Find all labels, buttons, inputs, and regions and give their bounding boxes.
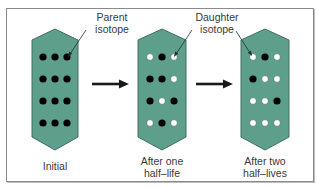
parent-isotope-dot	[39, 53, 46, 60]
daughter-isotope-dot	[171, 76, 178, 83]
daughter-isotope-label-line2: isotope	[188, 23, 246, 35]
caption-after-two-half-lives: After two half–lives	[230, 155, 300, 179]
daughter-isotope-label: Daughter isotope	[188, 11, 246, 35]
panel-after-two-half-lives-shape	[241, 29, 289, 150]
parent-isotope-dot	[39, 75, 46, 82]
daughter-isotope-dot	[147, 54, 154, 61]
daughter-isotope-dot	[250, 120, 257, 127]
daughter-isotope-dot	[262, 76, 269, 83]
daughter-isotope-dot	[274, 54, 281, 61]
daughter-isotope-dot	[159, 98, 166, 105]
daughter-isotope-dot	[274, 76, 281, 83]
parent-isotope-dot	[63, 119, 70, 126]
daughter-isotope-dot	[262, 98, 269, 105]
parent-isotope-dot	[39, 119, 46, 126]
caption-after-one-half-life-line1: After one	[128, 155, 196, 167]
parent-isotope-dot	[146, 75, 153, 82]
arrow-icon	[196, 80, 233, 89]
parent-isotope-dot	[273, 97, 280, 104]
parent-isotope-dot	[51, 97, 58, 104]
caption-initial-line1: Initial	[25, 160, 85, 172]
daughter-isotope-label-line1: Daughter	[188, 11, 246, 23]
parent-isotope-dot	[158, 53, 165, 60]
parent-isotope-dot	[158, 75, 165, 82]
parent-isotope-dot	[51, 53, 58, 60]
parent-isotope-dot	[261, 53, 268, 60]
parent-isotope-dot	[170, 97, 177, 104]
daughter-isotope-dot	[250, 98, 257, 105]
parent-isotope-dot	[146, 97, 153, 104]
panel-after-one-half-life-shape	[138, 29, 186, 150]
daughter-isotope-dot	[262, 120, 269, 127]
parent-isotope-label-line2: isotope	[86, 23, 138, 35]
parent-isotope-dot	[158, 119, 165, 126]
arrow-icon	[92, 80, 129, 89]
parent-isotope-label-line1: Parent	[86, 11, 138, 23]
daughter-isotope-dot	[274, 120, 281, 127]
caption-initial: Initial	[25, 160, 85, 172]
parent-isotope-label: Parent isotope	[86, 11, 138, 35]
daughter-isotope-dot	[147, 120, 154, 127]
parent-isotope-dot	[39, 97, 46, 104]
diagram-stage: Parent isotope Daughter isotope Initial …	[0, 0, 318, 188]
caption-after-two-half-lives-line1: After two	[230, 155, 300, 167]
parent-isotope-dot	[63, 97, 70, 104]
daughter-isotope-dot	[171, 120, 178, 127]
parent-isotope-dot	[51, 75, 58, 82]
caption-after-one-half-life-line2: half–life	[128, 167, 196, 179]
parent-isotope-dot	[63, 75, 70, 82]
caption-after-one-half-life: After one half–life	[128, 155, 196, 179]
parent-isotope-dot	[249, 75, 256, 82]
caption-after-two-half-lives-line2: half–lives	[230, 167, 300, 179]
parent-isotope-dot	[51, 119, 58, 126]
panel-initial-shape	[32, 29, 78, 150]
